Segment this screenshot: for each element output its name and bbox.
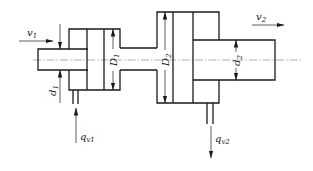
connecting-neck xyxy=(120,48,157,70)
label-d1: d1 xyxy=(47,85,60,96)
outlet-port xyxy=(207,103,213,158)
label-qv2: qv2 xyxy=(215,133,230,146)
label-v2: v2 xyxy=(256,11,267,24)
hydraulic-cylinder-diagram: v1 v2 D1 D2 d2 d1 qv1 qv2 xyxy=(0,0,313,171)
label-d2: d2 xyxy=(231,55,244,66)
label-qv1: qv1 xyxy=(80,131,95,144)
inlet-port xyxy=(73,90,78,143)
left-rod xyxy=(38,49,88,70)
label-v1: v1 xyxy=(27,27,37,40)
